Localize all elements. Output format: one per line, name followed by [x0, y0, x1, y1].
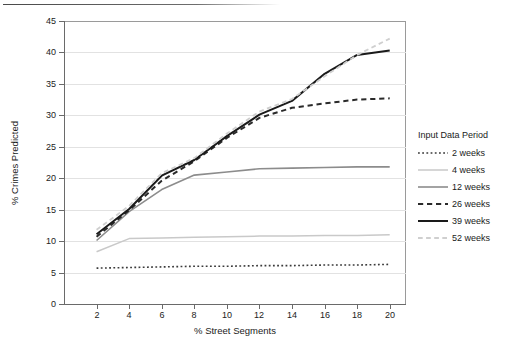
y-axis-tick-label: 10 [46, 237, 56, 246]
gridline [65, 147, 406, 148]
legend-item-label: 39 weeks [452, 216, 490, 226]
x-axis-tick [97, 305, 98, 309]
legend-item-label: 52 weeks [452, 233, 490, 243]
legend-item-label: 4 weeks [452, 165, 485, 175]
x-axis-tick [390, 305, 391, 309]
legend-items: 2 weeks4 weeks12 weeks26 weeks39 weeks52… [418, 144, 514, 246]
gridline [65, 241, 406, 242]
y-axis-tick-label: 20 [46, 174, 56, 183]
legend-item-label: 12 weeks [452, 182, 490, 192]
x-axis-tick [227, 305, 228, 309]
gridline [65, 178, 406, 179]
legend-swatch-icon [418, 182, 448, 192]
y-axis-tick-label: 30 [46, 111, 56, 120]
y-axis-tick [59, 304, 64, 305]
y-axis-title: % Crimes Predicted [9, 121, 20, 205]
x-axis-tick [259, 305, 260, 309]
y-axis-tick-label: 15 [46, 206, 56, 215]
legend-swatch-icon [418, 233, 448, 243]
gridline [65, 84, 406, 85]
y-axis-tick [59, 178, 64, 179]
y-axis-tick [59, 241, 64, 242]
y-axis-tick [59, 273, 64, 274]
x-axis-tick-label: 16 [313, 311, 337, 320]
x-axis-tick [292, 305, 293, 309]
y-axis-tick [59, 210, 64, 211]
legend-item-label: 26 weeks [452, 199, 490, 209]
legend-item-2-weeks[interactable]: 2 weeks [418, 144, 514, 161]
legend-item-26-weeks[interactable]: 26 weeks [418, 195, 514, 212]
y-axis-tick [59, 21, 64, 22]
x-axis-tick-label: 20 [378, 311, 402, 320]
legend-item-label: 2 weeks [452, 148, 485, 158]
gridline [65, 115, 406, 116]
y-axis-tick-label: 35 [46, 80, 56, 89]
y-axis-tick-label: 40 [46, 48, 56, 57]
x-axis-title: % Street Segments [64, 325, 406, 336]
x-axis-line [64, 304, 406, 305]
y-axis-tick-label: 5 [51, 269, 56, 278]
gridline [65, 273, 406, 274]
y-axis-tick [59, 84, 64, 85]
legend-swatch-icon [418, 165, 448, 175]
y-axis-tick [59, 147, 64, 148]
legend-title: Input Data Period [418, 130, 514, 140]
x-axis-tick-label: 8 [182, 311, 206, 320]
legend-swatch-icon [418, 199, 448, 209]
legend-swatch-icon [418, 148, 448, 158]
legend-item-39-weeks[interactable]: 39 weeks [418, 212, 514, 229]
chart-figure: 454035302520151050 2468101214161820 % Cr… [0, 0, 514, 343]
x-axis-tick [194, 305, 195, 309]
x-axis-tick-label: 2 [85, 311, 109, 320]
y-axis-tick-label: 25 [46, 143, 56, 152]
legend-item-12-weeks[interactable]: 12 weeks [418, 178, 514, 195]
gridline [65, 210, 406, 211]
legend-item-4-weeks[interactable]: 4 weeks [418, 161, 514, 178]
gridline [65, 52, 406, 53]
x-axis-tick [325, 305, 326, 309]
x-axis-tick [357, 305, 358, 309]
y-axis-tick [59, 115, 64, 116]
plot-frame [64, 21, 406, 305]
legend-swatch-icon [418, 216, 448, 226]
x-axis-tick [162, 305, 163, 309]
x-axis-tick [129, 305, 130, 309]
y-axis-line [64, 21, 65, 305]
x-axis-tick-label: 4 [117, 311, 141, 320]
x-axis-tick-label: 18 [345, 311, 369, 320]
x-axis-tick-label: 6 [150, 311, 174, 320]
x-axis-tick-label: 12 [247, 311, 271, 320]
y-axis-tick-label: 45 [46, 17, 56, 26]
legend-item-52-weeks[interactable]: 52 weeks [418, 229, 514, 246]
y-axis-tick [59, 52, 64, 53]
y-axis-tick-label: 0 [51, 300, 56, 309]
legend: Input Data Period 2 weeks4 weeks12 weeks… [418, 130, 514, 246]
x-axis-tick-label: 10 [215, 311, 239, 320]
x-axis-tick-label: 14 [280, 311, 304, 320]
